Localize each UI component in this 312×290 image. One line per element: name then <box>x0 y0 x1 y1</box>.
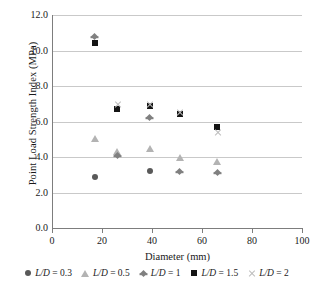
legend-item[interactable]: L/D = 0.5 <box>81 268 130 278</box>
x-tick-mark <box>302 229 303 233</box>
circle-marker-icon <box>25 270 31 276</box>
data-point <box>147 168 153 174</box>
data-point <box>115 153 120 158</box>
x-tick-label: 20 <box>82 236 122 246</box>
legend-marker <box>81 269 90 278</box>
circle-marker-icon <box>147 168 153 174</box>
triangle-marker-icon <box>146 145 154 152</box>
x-tick-mark <box>102 229 103 233</box>
legend-label: L/D = 1.5 <box>201 268 238 278</box>
triangle-marker-icon <box>213 158 221 165</box>
legend-marker <box>23 269 32 278</box>
x-axis-line <box>52 228 303 229</box>
y-tick-label: 8.0 <box>8 81 48 91</box>
triangle-marker-icon <box>81 270 89 277</box>
legend-label: L/D = 2 <box>259 268 289 278</box>
legend-item[interactable]: L/D = 1.5 <box>189 268 238 278</box>
square-marker-icon <box>191 270 197 276</box>
y-axis-tick-labels: 0.02.04.06.08.010.012.0 <box>4 0 48 290</box>
square-marker-icon <box>92 40 98 46</box>
data-point <box>114 101 121 108</box>
scatter-chart-figure: Point Load Strength Index (MPa) 0.02.04.… <box>0 0 312 290</box>
x-tick-label: 40 <box>132 236 172 246</box>
cross-marker-icon <box>248 270 255 277</box>
diamond-marker-icon <box>140 269 147 276</box>
y-tick-label: 4.0 <box>8 152 48 162</box>
diamond-marker-icon <box>146 114 153 121</box>
y-axis-line <box>52 15 53 229</box>
y-tick-label: 0.0 <box>8 223 48 233</box>
cross-marker-icon <box>146 101 153 108</box>
x-tick-label: 0 <box>32 236 72 246</box>
x-tick-mark <box>252 229 253 233</box>
legend-label: L/D = 1 <box>151 268 181 278</box>
data-point <box>213 158 221 165</box>
data-point <box>147 115 152 120</box>
legend-marker <box>189 269 198 278</box>
data-point <box>146 101 153 108</box>
gridline <box>52 193 302 194</box>
circle-marker-icon <box>92 174 98 180</box>
y-tick-label: 6.0 <box>8 117 48 127</box>
data-point <box>92 34 97 39</box>
x-axis-title: Diameter (mm) <box>52 251 303 262</box>
cross-marker-icon <box>214 129 221 136</box>
triangle-marker-icon <box>176 154 184 161</box>
y-tick-label: 10.0 <box>8 46 48 56</box>
data-point <box>214 129 221 136</box>
y-tick-label: 12.0 <box>8 10 48 20</box>
legend-marker <box>139 269 148 278</box>
data-point <box>176 154 184 161</box>
x-tick-label: 60 <box>182 236 222 246</box>
x-tick-label: 100 <box>282 236 312 246</box>
data-point <box>146 145 154 152</box>
triangle-marker-icon <box>91 135 99 142</box>
gridline <box>52 51 302 52</box>
cross-marker-icon <box>114 101 121 108</box>
chart-legend: L/D = 0.3L/D = 0.5L/D = 1L/D = 1.5L/D = … <box>0 268 312 278</box>
diamond-marker-icon <box>91 33 98 40</box>
legend-item[interactable]: L/D = 0.3 <box>23 268 72 278</box>
legend-item[interactable]: L/D = 1 <box>139 268 181 278</box>
diamond-marker-icon <box>113 152 120 159</box>
data-point <box>91 135 99 142</box>
data-point <box>177 169 182 174</box>
cross-marker-icon <box>176 109 183 116</box>
gridline <box>52 15 302 16</box>
legend-item[interactable]: L/D = 2 <box>247 268 289 278</box>
diamond-marker-icon <box>176 168 183 175</box>
data-point <box>215 170 220 175</box>
data-point <box>92 174 98 180</box>
gridline <box>52 122 302 123</box>
legend-label: L/D = 0.5 <box>93 268 130 278</box>
y-tick-label: 2.0 <box>8 188 48 198</box>
x-tick-label: 80 <box>232 236 272 246</box>
legend-marker <box>247 269 256 278</box>
data-point <box>92 40 98 46</box>
gridline <box>52 86 302 87</box>
data-point <box>176 109 183 116</box>
x-tick-mark <box>152 229 153 233</box>
x-tick-mark <box>202 229 203 233</box>
legend-label: L/D = 0.3 <box>35 268 72 278</box>
diamond-marker-icon <box>213 169 220 176</box>
plot-area <box>52 15 302 228</box>
x-tick-mark <box>52 229 53 233</box>
